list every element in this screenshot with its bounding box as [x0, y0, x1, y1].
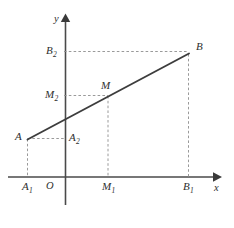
foot-label-b2-subscript: 2: [53, 50, 57, 59]
point-label-b: B: [196, 41, 203, 52]
foot-label-a1: A1: [22, 181, 32, 192]
foot-label-b1-base: B: [183, 180, 190, 192]
y-axis-label: y: [54, 14, 59, 25]
foot-label-m2-base: M: [45, 88, 54, 100]
foot-label-a2-base: A: [69, 131, 76, 143]
foot-label-m1: M1: [102, 181, 115, 192]
origin-label: O: [46, 181, 54, 192]
x-axis-label: x: [214, 183, 219, 194]
foot-label-m2: M2: [45, 89, 58, 100]
foot-label-a1-subscript: 1: [29, 186, 33, 195]
foot-label-m2-subscript: 2: [54, 94, 58, 103]
foot-label-b1-subscript: 1: [190, 186, 194, 195]
foot-label-a2-subscript: 2: [76, 137, 80, 146]
y-axis-arrowhead: [61, 14, 70, 23]
foot-label-b2-base: B: [46, 44, 53, 56]
point-label-m: M: [101, 80, 110, 91]
geometry-figure: A B M A1 M1 B1 A2 M2 B2 O x y: [0, 0, 234, 228]
foot-label-m1-base: M: [102, 180, 111, 192]
point-label-a: A: [15, 131, 22, 142]
x-axis-arrowhead: [213, 172, 222, 182]
foot-label-m1-subscript: 1: [111, 186, 115, 195]
foot-label-b1: B1: [183, 181, 193, 192]
figure-canvas: [0, 0, 234, 228]
foot-label-a1-base: A: [22, 180, 29, 192]
foot-label-a2: A2: [69, 132, 79, 143]
foot-label-b2: B2: [46, 45, 56, 56]
